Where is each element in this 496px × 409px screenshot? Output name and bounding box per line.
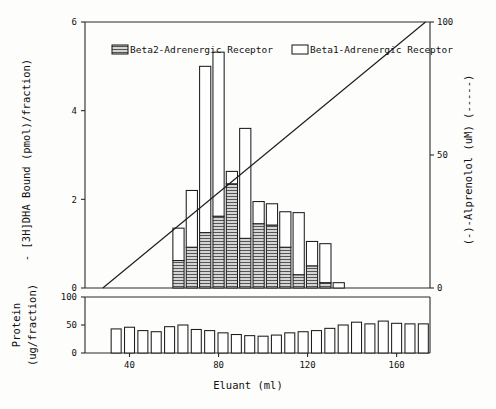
bar-protein-19	[365, 324, 375, 353]
bar-protein-13	[285, 333, 295, 353]
legend-label-beta2: Beta2-Adrenergic Receptor	[130, 44, 273, 55]
y-ticklabel-protein-100: 100	[61, 292, 77, 302]
bar-beta2-4	[226, 184, 237, 288]
bar-beta2-3	[213, 216, 224, 288]
bar-protein-12	[271, 335, 281, 353]
bar-protein-1	[125, 327, 135, 353]
bar-beta1-6	[253, 202, 264, 224]
bar-protein-8	[218, 333, 228, 353]
bar-beta1-10	[306, 241, 317, 265]
bar-protein-7	[205, 331, 215, 353]
bar-protein-5	[178, 325, 188, 353]
bar-beta1-2	[200, 66, 211, 232]
bar-beta2-1	[186, 247, 197, 288]
y-axis-label-left-top: - [3H]DHA Bound (pmol)/fraction)	[20, 59, 32, 261]
y-ticklabel-right-0: 0	[437, 283, 442, 293]
bar-protein-23	[418, 324, 428, 353]
chart-figure: 0246050100Beta2-Adrenergic ReceptorBeta1…	[0, 0, 496, 409]
bar-protein-6	[191, 329, 201, 353]
y-ticklabel-left-6: 6	[72, 17, 77, 27]
bar-beta2-8	[280, 247, 291, 288]
bar-protein-9	[231, 335, 241, 353]
bar-beta1-9	[293, 213, 304, 275]
bar-beta2-6	[253, 224, 264, 288]
legend-swatch-beta1	[292, 45, 308, 54]
bar-beta1-1	[186, 190, 197, 247]
bar-beta2-5	[240, 238, 251, 288]
bar-beta1-3	[213, 52, 224, 216]
y-ticklabel-left-2: 2	[72, 195, 77, 205]
bar-protein-3	[151, 332, 161, 353]
bar-protein-17	[338, 325, 348, 353]
bar-beta2-0	[173, 261, 184, 288]
bar-beta1-7	[266, 204, 277, 225]
bar-beta1-12	[333, 283, 344, 288]
bar-protein-20	[378, 321, 388, 353]
bar-protein-22	[405, 324, 415, 353]
bar-protein-2	[138, 331, 148, 353]
y-ticklabel-left-4: 4	[72, 106, 77, 116]
bar-beta2-11	[320, 283, 331, 288]
bar-protein-21	[392, 323, 402, 353]
y-axis-label-right: (-)-Alprenolol (uM) (-----)	[462, 75, 474, 246]
x-axis-label: Eluant (ml)	[213, 379, 283, 391]
bar-beta1-0	[173, 228, 184, 260]
legend-label-beta1: Beta1-Adrenergic Receptor	[310, 44, 453, 55]
y-ticklabel-right-50: 50	[437, 150, 448, 160]
bar-protein-10	[245, 336, 255, 353]
bar-protein-15	[311, 331, 321, 353]
bar-beta2-7	[266, 225, 277, 288]
bar-protein-4	[165, 327, 175, 353]
bar-protein-14	[298, 332, 308, 353]
x-ticklabel-120: 120	[299, 360, 315, 370]
y-ticklabel-right-100: 100	[437, 17, 453, 27]
y-ticklabel-protein-0: 0	[72, 348, 77, 358]
legend: Beta2-Adrenergic ReceptorBeta1-Adrenergi…	[112, 44, 453, 55]
bar-beta2-10	[306, 266, 317, 288]
bar-beta2-9	[293, 275, 304, 288]
bar-protein-18	[352, 322, 362, 353]
bar-beta2-2	[200, 233, 211, 288]
chromatography-chart: 0246050100Beta2-Adrenergic ReceptorBeta1…	[0, 0, 496, 409]
bar-beta1-11	[320, 244, 331, 283]
protein-bar-group	[111, 321, 428, 353]
bar-protein-0	[111, 329, 121, 353]
bar-beta1-8	[280, 212, 291, 247]
x-ticklabel-40: 40	[124, 360, 135, 370]
y-axis-label-protein-1: Protein	[10, 303, 22, 347]
bar-beta1-5	[240, 128, 251, 238]
receptor-bar-group	[173, 52, 344, 288]
y-ticklabel-protein-50: 50	[66, 320, 77, 330]
bar-protein-16	[325, 328, 335, 353]
bar-protein-11	[258, 336, 268, 353]
x-ticklabel-80: 80	[213, 360, 224, 370]
y-axis-label-protein-2: (ug/fraction)	[26, 284, 38, 366]
x-ticklabel-160: 160	[388, 360, 404, 370]
legend-swatch-beta2	[112, 45, 128, 54]
